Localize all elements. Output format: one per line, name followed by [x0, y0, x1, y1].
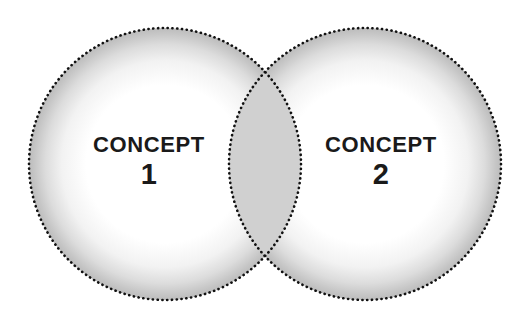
venn-diagram: CONCEPT 1 CONCEPT 2 — [0, 0, 527, 327]
venn-canvas — [0, 0, 527, 327]
